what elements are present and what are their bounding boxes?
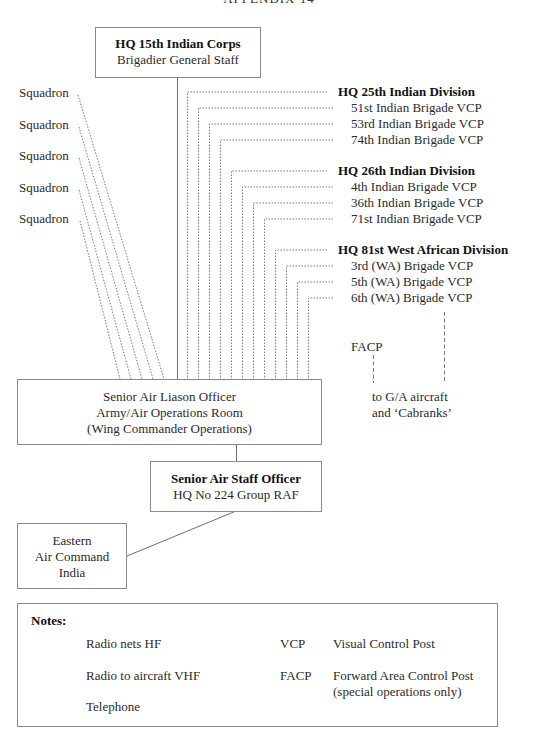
brigade-label: 36th Indian Brigade VCP bbox=[351, 195, 483, 211]
division-radio-lines bbox=[188, 92, 334, 379]
legend-label-hf: Radio nets HF bbox=[86, 636, 161, 652]
brigade-label: 3rd (WA) Brigade VCP bbox=[351, 258, 473, 274]
brigade-label: 4th Indian Brigade VCP bbox=[351, 179, 477, 195]
squadron-label: Squadron bbox=[19, 85, 69, 101]
brigade-label: 51st Indian Brigade VCP bbox=[351, 100, 482, 116]
notes-title: Notes: bbox=[31, 613, 66, 629]
brigade-label: 6th (WA) Brigade VCP bbox=[351, 290, 472, 306]
squadron-radio-lines bbox=[78, 95, 164, 379]
telephone-line-saso-eac bbox=[127, 511, 236, 556]
abbr-vcp: VCP bbox=[280, 636, 305, 652]
saso-subtitle: HQ No 224 Group RAF bbox=[151, 487, 321, 503]
corps-hq-title: HQ 15th Indian Corps bbox=[96, 36, 260, 52]
brigade-label: 71st Indian Brigade VCP bbox=[351, 211, 482, 227]
brigade-label: 5th (WA) Brigade VCP bbox=[351, 274, 472, 290]
eastern-air-command-box: Eastern Air Command India bbox=[17, 523, 127, 589]
abbr-vcp-meaning: Visual Control Post bbox=[333, 636, 435, 652]
brigade-label: 53rd Indian Brigade VCP bbox=[351, 116, 484, 132]
corps-hq-subtitle: Brigadier General Staff bbox=[96, 52, 260, 68]
squadron-label: Squadron bbox=[19, 180, 69, 196]
eac-line1: Eastern bbox=[18, 533, 126, 549]
corps-hq-box: HQ 15th Indian Corps Brigadier General S… bbox=[95, 27, 261, 78]
abbr-facp-meaning-note: (special operations only) bbox=[333, 684, 462, 700]
squadron-label: Squadron bbox=[19, 211, 69, 227]
squadron-label: Squadron bbox=[19, 117, 69, 133]
salo-line2: Army/Air Operations Room bbox=[18, 405, 321, 421]
vhf-radio-lines bbox=[374, 312, 445, 383]
eac-line2: Air Command bbox=[18, 549, 126, 565]
abbr-facp: FACP bbox=[280, 668, 312, 684]
legend-label-telephone: Telephone bbox=[86, 699, 140, 715]
salo-line1: Senior Air Liason Officer bbox=[18, 389, 321, 405]
facp-label: FACP bbox=[351, 339, 383, 355]
legend-label-vhf: Radio to aircraft VHF bbox=[86, 668, 200, 684]
division-hq-label: HQ 26th Indian Division bbox=[338, 163, 475, 179]
eac-line3: India bbox=[18, 565, 126, 581]
saso-box: Senior Air Staff Officer HQ No 224 Group… bbox=[150, 461, 322, 512]
facp-target-line2: and ‘Cabranks’ bbox=[372, 405, 452, 421]
brigade-label: 74th Indian Brigade VCP bbox=[351, 132, 483, 148]
salo-box: Senior Air Liason Officer Army/Air Opera… bbox=[17, 379, 322, 445]
division-hq-label: HQ 25th Indian Division bbox=[338, 84, 475, 100]
facp-target-line1: to G/A aircraft bbox=[372, 389, 448, 405]
saso-title: Senior Air Staff Officer bbox=[151, 471, 321, 487]
division-hq-label: HQ 81st West African Division bbox=[338, 242, 508, 258]
salo-line3: (Wing Commander Operations) bbox=[18, 421, 321, 437]
squadron-label: Squadron bbox=[19, 148, 69, 164]
abbr-facp-meaning: Forward Area Control Post bbox=[333, 668, 473, 684]
